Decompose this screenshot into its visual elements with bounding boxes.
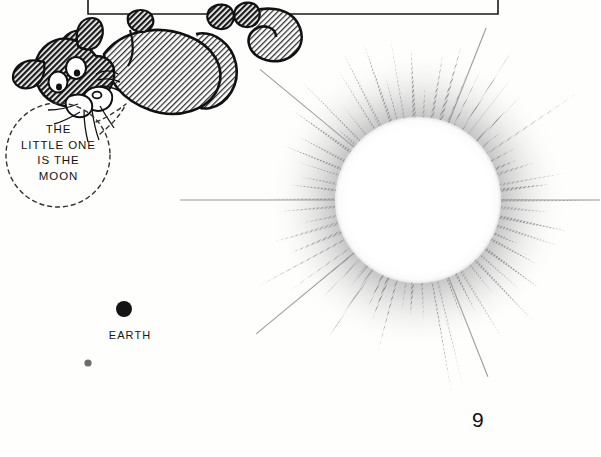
speech-line-4: MOON <box>6 169 111 185</box>
speech-bubble-text: THE LITTLE ONE IS THE MOON <box>6 122 111 184</box>
earth-dot <box>116 301 132 317</box>
comic-page: THE LITTLE ONE IS THE MOON EARTH 9 <box>0 0 601 457</box>
earth-label: EARTH <box>84 329 176 341</box>
speech-line-2: LITTLE ONE <box>6 138 111 154</box>
sun-disc <box>335 117 501 283</box>
speech-line-1: THE <box>6 122 111 138</box>
speech-line-3: IS THE <box>6 153 111 169</box>
illustration-layer <box>0 0 601 457</box>
moon-dot <box>84 359 91 366</box>
page-number: 9 <box>472 408 484 432</box>
